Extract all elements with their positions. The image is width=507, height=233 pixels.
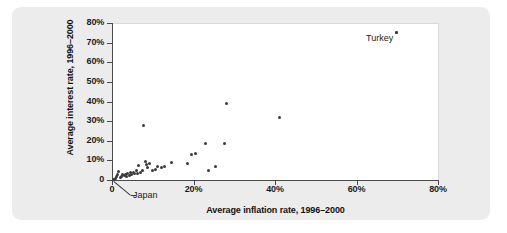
x-tick-label: 60%	[337, 184, 377, 194]
data-point	[142, 124, 145, 127]
y-tick-mark	[107, 160, 112, 161]
data-point	[225, 102, 228, 105]
plot-wrapper: 010%20%30%40%50%60%70%80% 020%40%60%80% …	[0, 0, 507, 233]
x-tick-label: 80%	[418, 184, 458, 194]
y-tick-mark	[107, 62, 112, 63]
y-axis-line	[112, 23, 113, 181]
data-point	[141, 169, 144, 172]
data-point	[170, 161, 173, 164]
y-axis-title: Average interest rate, 1996–2000	[65, 3, 76, 173]
leader-line-segment	[131, 195, 136, 196]
data-point	[194, 152, 197, 155]
y-axis-title-holder: Average interest rate, 1996–2000	[48, 20, 66, 180]
data-point	[207, 169, 210, 172]
data-point	[223, 142, 226, 145]
y-tick-mark	[107, 82, 112, 83]
plot-area	[112, 23, 438, 180]
scatter-chart-figure: 010%20%30%40%50%60%70%80% 020%40%60%80% …	[0, 0, 507, 233]
data-point	[204, 142, 207, 145]
plot-right-edge	[438, 23, 439, 181]
y-tick-mark	[107, 43, 112, 44]
x-tick-label: 40%	[255, 184, 295, 194]
data-point	[214, 165, 217, 168]
data-point	[186, 162, 189, 165]
y-tick-label: 0	[70, 174, 104, 184]
x-tick-label: 20%	[174, 184, 214, 194]
y-tick-mark	[107, 102, 112, 103]
y-tick-mark	[107, 23, 112, 24]
annotation-label-turkey: Turkey	[366, 33, 393, 43]
x-axis-title: Average inflation rate, 1996–2000	[112, 205, 439, 215]
plot-top-edge	[112, 23, 439, 24]
annotation-label-japan: Japan	[133, 190, 158, 200]
y-tick-mark	[107, 141, 112, 142]
y-tick-mark	[107, 121, 112, 122]
